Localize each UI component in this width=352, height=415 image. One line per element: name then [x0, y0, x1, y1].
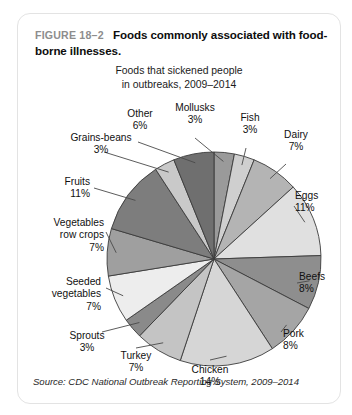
- pie-label-pork: Pork 8%: [283, 328, 325, 353]
- pie-label-sprouts-value: 3%: [61, 342, 113, 354]
- pie-label-beefs-name: Beefs: [299, 271, 325, 282]
- pie-chart: Foods that sickened people in outbreaks,…: [18, 64, 340, 374]
- pie-label-dairy-value: 7%: [273, 141, 319, 153]
- pie-label-eggs: Eggs 11%: [295, 190, 339, 215]
- source-line: Source: CDC National Outbreak Reporting …: [33, 376, 299, 387]
- pie-label-vegetables-row-crops-name1: Vegetables: [54, 217, 104, 228]
- figure-caption: FIGURE 18–2 Foods commonly associated wi…: [35, 27, 329, 58]
- pie-label-chicken-name: Chicken: [192, 364, 229, 375]
- pie-label-seeded-vegetables-name2: vegetables: [25, 288, 101, 300]
- pie-label-eggs-value: 11%: [295, 202, 339, 214]
- pie-label-dairy: Dairy 7%: [273, 129, 319, 154]
- pie-label-turkey: Turkey 7%: [112, 350, 160, 375]
- pie-label-mollusks-value: 3%: [164, 114, 226, 126]
- pie-label-other: Other 6%: [113, 108, 167, 133]
- pie-label-grains-beans-value: 3%: [58, 144, 144, 156]
- pie-label-sprouts-name: Sprouts: [69, 330, 104, 341]
- leader-line: [138, 142, 195, 163]
- figure-card: FIGURE 18–2 Foods commonly associated wi…: [17, 13, 341, 404]
- pie-label-fruits: Fruits 11%: [36, 176, 90, 201]
- pie-label-turkey-name: Turkey: [121, 350, 152, 361]
- pie-label-fruits-value: 11%: [36, 188, 90, 200]
- pie-label-seeded-vegetables-value: 7%: [25, 301, 101, 313]
- pie-label-other-name: Other: [127, 108, 152, 119]
- pie-label-eggs-name: Eggs: [295, 190, 318, 201]
- pie-label-grains-beans: Grains-beans 3%: [58, 132, 144, 157]
- pie-label-pork-name: Pork: [283, 328, 304, 339]
- pie-label-turkey-value: 7%: [112, 362, 160, 374]
- pie-label-fish: Fish 3%: [230, 112, 270, 137]
- pie-label-vegetables-row-crops-value: 7%: [20, 242, 104, 254]
- pie-label-seeded-vegetables: Seeded vegetables 7%: [25, 276, 101, 313]
- pie-label-mollusks: Mollusks 3%: [164, 102, 226, 127]
- pie-label-fruits-name: Fruits: [65, 176, 90, 187]
- pie-label-dairy-name: Dairy: [284, 129, 308, 140]
- pie-label-beefs: Beefs 8%: [299, 271, 341, 296]
- figure-number: FIGURE 18–2: [35, 29, 104, 41]
- pie-label-vegetables-row-crops: Vegetables row crops 7%: [20, 217, 104, 254]
- pie-label-fish-value: 3%: [230, 124, 270, 136]
- pie-label-mollusks-name: Mollusks: [175, 102, 215, 113]
- pie-label-beefs-value: 8%: [299, 283, 341, 295]
- pie-label-fish-name: Fish: [240, 112, 259, 123]
- pie-label-sprouts: Sprouts 3%: [61, 330, 113, 355]
- pie-label-grains-beans-name: Grains-beans: [70, 132, 131, 143]
- pie-label-vegetables-row-crops-name2: row crops: [20, 229, 104, 241]
- pie-label-other-value: 6%: [113, 120, 167, 132]
- pie-label-pork-value: 8%: [283, 340, 325, 352]
- pie-label-seeded-vegetables-name1: Seeded: [66, 276, 101, 287]
